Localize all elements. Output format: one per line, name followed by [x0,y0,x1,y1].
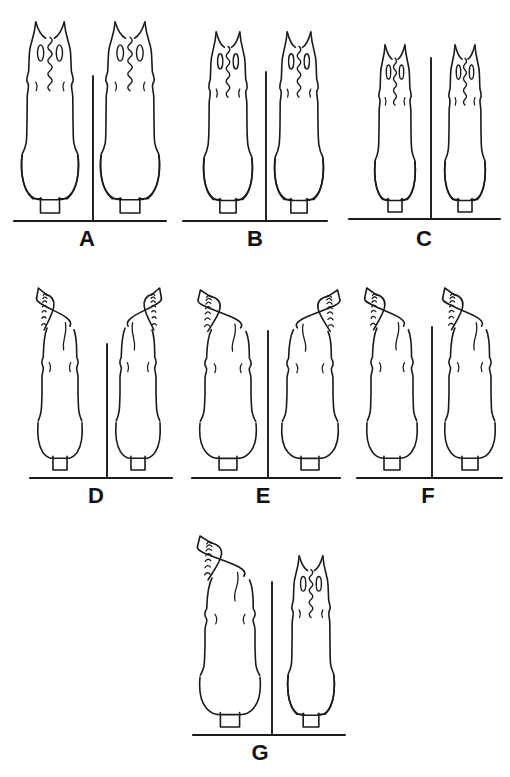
panel-label-b: B [247,226,263,251]
panel-label-c: C [416,226,432,251]
panel-label-a: A [79,226,95,251]
panel-label-d: D [88,483,104,508]
panel-label-e: E [256,483,271,508]
panel-label-g: G [251,740,268,765]
figure-plate: A B C D E F G [0,0,510,777]
panel-label-f: F [421,483,434,508]
